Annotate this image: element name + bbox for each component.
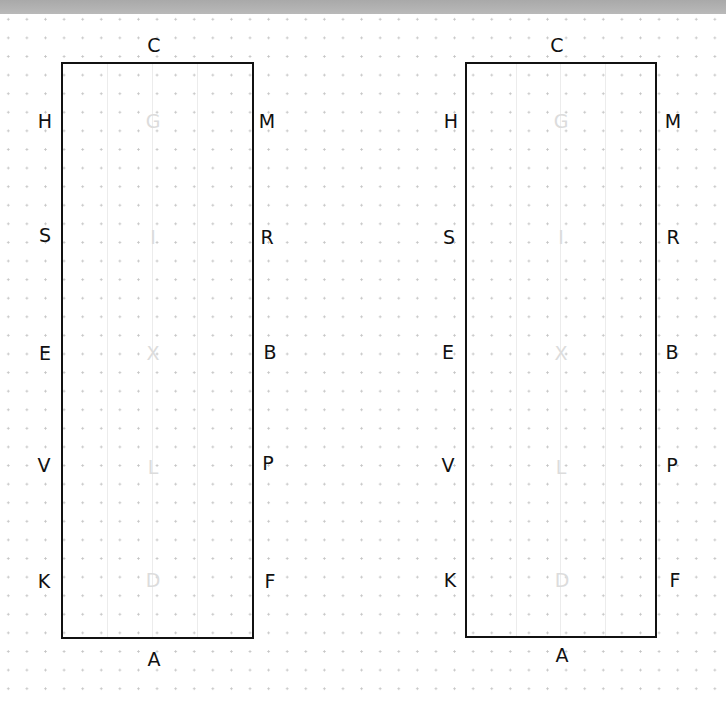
letter-bottom: A <box>556 646 569 665</box>
letter-right: P <box>262 454 273 473</box>
letter-right: R <box>260 228 273 247</box>
letter-left: V <box>38 456 51 475</box>
centerline-guide <box>605 64 606 636</box>
letter-left: H <box>38 112 52 131</box>
centerline-guide <box>516 64 517 636</box>
letter-center: D <box>555 571 570 590</box>
letter-center: I <box>150 228 156 247</box>
letter-left: H <box>444 112 458 131</box>
letter-right: M <box>259 112 275 131</box>
letter-left: V <box>442 456 455 475</box>
letter-right: B <box>665 343 678 362</box>
letter-right: P <box>666 456 677 475</box>
centerline-guide <box>197 64 198 637</box>
letter-center: L <box>148 458 159 477</box>
letter-right: F <box>670 571 681 590</box>
centerline-guide <box>107 64 108 637</box>
letter-right: F <box>265 572 276 591</box>
letter-left: E <box>39 344 51 363</box>
letter-center: G <box>554 112 569 131</box>
letter-top: C <box>147 36 160 55</box>
letter-center: D <box>146 571 161 590</box>
letter-right: R <box>666 228 679 247</box>
letter-left: E <box>442 343 454 362</box>
letter-center: G <box>146 112 161 131</box>
letter-bottom: A <box>148 650 161 669</box>
letter-center: I <box>558 228 564 247</box>
letter-right: B <box>263 343 276 362</box>
letter-left: K <box>444 571 456 590</box>
letter-center: L <box>556 458 567 477</box>
top-bar <box>0 0 726 14</box>
letter-center: X <box>146 344 159 363</box>
letter-right: M <box>665 112 681 131</box>
letter-center: X <box>554 344 567 363</box>
letter-left: K <box>38 572 50 591</box>
letter-left: S <box>39 226 51 245</box>
letter-top: C <box>550 36 563 55</box>
letter-left: S <box>443 228 455 247</box>
